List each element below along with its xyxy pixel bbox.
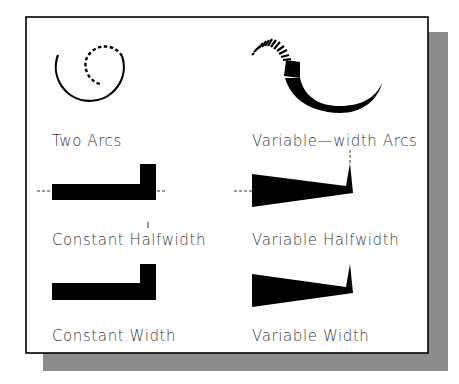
label-constant-width: Constant Width [52,327,176,345]
label-variable-width: Variable Width [252,327,369,345]
label-constant-halfwidth: Constant Halfwidth [52,231,206,249]
tapered-arc-neck [284,60,300,78]
label-variable-halfwidth: Variable Halfwidth [252,231,399,249]
label-two-arcs: Two Arcs [52,132,122,150]
polyline-width-diagram: Two Arcs Variable—width Arcs Constant Ha… [0,0,459,384]
label-variable-width-arcs: Variable—width Arcs [252,132,417,150]
